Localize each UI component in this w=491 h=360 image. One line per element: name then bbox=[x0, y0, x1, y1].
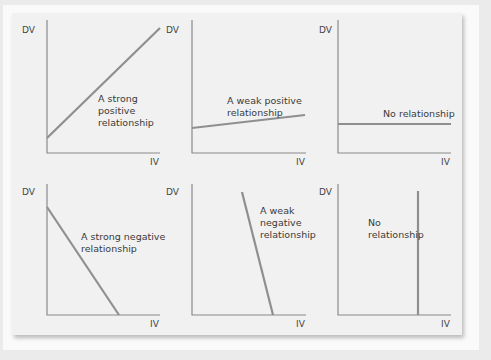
dv-label: DV bbox=[166, 25, 179, 35]
iv-label: IV bbox=[150, 157, 159, 167]
axes-weak-positive bbox=[192, 20, 306, 153]
dv-label: DV bbox=[319, 25, 332, 35]
iv-label: IV bbox=[150, 319, 159, 329]
axes-no-relationship-vertical bbox=[338, 184, 451, 315]
relationship-graphs bbox=[0, 0, 491, 360]
dv-label: DV bbox=[22, 187, 35, 197]
caption-strong-positive: A strong positive relationship bbox=[98, 93, 154, 129]
caption-weak-positive: A weak positive relationship bbox=[227, 95, 302, 119]
dv-label: DV bbox=[166, 187, 179, 197]
caption-strong-negative: A strong negative relationship bbox=[81, 231, 165, 255]
dv-label: DV bbox=[319, 187, 332, 197]
dv-label: DV bbox=[22, 25, 35, 35]
iv-label: IV bbox=[296, 157, 305, 167]
iv-label: IV bbox=[441, 157, 450, 167]
axes-no-relationship-horizontal bbox=[338, 20, 451, 153]
caption-no-relationship-horizontal: No relationship bbox=[383, 108, 455, 120]
caption-weak-negative: A weak negative relationship bbox=[260, 205, 316, 241]
axes-weak-negative bbox=[192, 184, 306, 315]
axes-strong-positive bbox=[47, 20, 160, 153]
caption-no-relationship-vertical: No relationship bbox=[368, 217, 424, 241]
iv-label: IV bbox=[296, 319, 305, 329]
line-strong-negative bbox=[47, 207, 119, 315]
iv-label: IV bbox=[441, 319, 450, 329]
